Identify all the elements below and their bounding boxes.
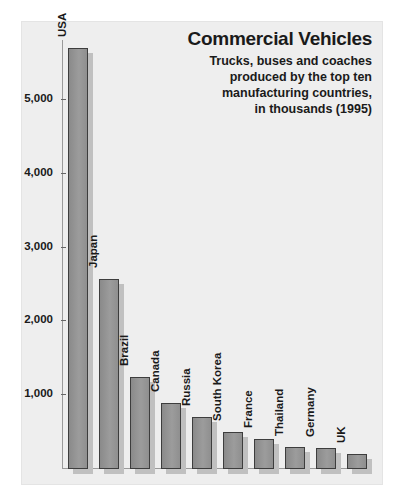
bar-label-russia: Russia <box>180 369 192 407</box>
bar-usa[interactable] <box>68 48 88 469</box>
bar-label-germany: Germany <box>304 387 316 437</box>
y-axis-tick-label: 3,000 <box>2 240 62 252</box>
chart-figure: Commercial Vehicles Trucks, buses and co… <box>0 0 404 496</box>
bar-japan[interactable] <box>99 279 119 469</box>
bar-label-france: France <box>242 391 254 429</box>
bar-label-thailand: Thailand <box>273 389 285 436</box>
bar-group[interactable]: Japan <box>99 277 119 469</box>
bar-group[interactable]: Brazil <box>130 375 150 469</box>
y-axis-tick-label: 5,000 <box>2 92 62 104</box>
bar-group[interactable]: Germany <box>316 446 336 469</box>
bar-group[interactable]: Russia <box>192 415 212 469</box>
plot-area: 1,0002,0003,0004,0005,000 USAJapanBrazil… <box>62 40 374 470</box>
bar-group[interactable]: South Korea <box>223 430 243 469</box>
bar-label-uk: UK <box>335 427 347 444</box>
bar-label-south-korea: South Korea <box>211 353 223 421</box>
bar-label-japan: Japan <box>87 235 99 268</box>
y-axis-tick-label: 2,000 <box>2 313 62 325</box>
bar-group[interactable]: USA <box>68 46 88 469</box>
bar-uk[interactable] <box>347 454 367 469</box>
bar-germany[interactable] <box>316 448 336 469</box>
bar-france[interactable] <box>254 439 274 469</box>
bar-canada[interactable] <box>161 403 181 469</box>
bar-south-korea[interactable] <box>223 432 243 469</box>
bar-russia[interactable] <box>192 417 212 469</box>
bar-brazil[interactable] <box>130 377 150 469</box>
bar-thailand[interactable] <box>285 447 305 469</box>
bar-group[interactable]: Thailand <box>285 445 305 469</box>
bar-label-usa: USA <box>56 13 68 37</box>
bar-group[interactable]: UK <box>347 452 367 469</box>
bar-group[interactable]: Canada <box>161 401 181 469</box>
y-axis-line <box>62 40 63 468</box>
y-axis-tick-label: 4,000 <box>2 166 62 178</box>
y-axis-tick-label: 1,000 <box>2 387 62 399</box>
bar-group[interactable]: France <box>254 437 274 469</box>
bar-label-brazil: Brazil <box>118 334 130 365</box>
bar-label-canada: Canada <box>149 350 161 392</box>
